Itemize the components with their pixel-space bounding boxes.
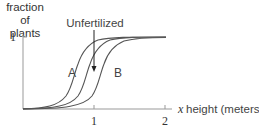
x-axis-label: height (meters) <box>186 103 259 115</box>
unfertilized-label: Unfertilized <box>66 17 124 29</box>
x-axis-variable: x <box>177 102 184 116</box>
unfertilized-arrow-head <box>92 66 97 72</box>
x-tick-label-2: 2 <box>162 114 168 128</box>
curve-b-label: B <box>114 66 122 80</box>
chart: 1 1 2 x height (meters) Unfertilized A B <box>0 0 259 138</box>
y-tick-label-1: 1 <box>10 30 16 44</box>
curve-a-label: A <box>68 66 76 80</box>
x-tick-label-1: 1 <box>91 114 97 128</box>
